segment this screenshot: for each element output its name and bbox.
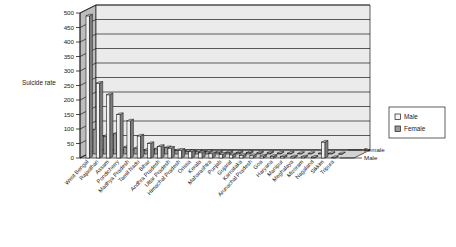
y-axis-tick-label: 500 [64, 9, 75, 16]
bar [127, 119, 133, 158]
y-axis-tick-label: 450 [64, 24, 75, 31]
legend-label-female: Female [404, 125, 426, 132]
bar [199, 151, 205, 158]
y-axis-tick-label: 200 [64, 96, 75, 103]
bar [158, 145, 164, 158]
male-swatch [395, 114, 401, 120]
plot-walls [80, 5, 370, 158]
bar [219, 153, 225, 158]
y-axis-tick-label: 250 [64, 82, 75, 89]
bar [322, 140, 328, 158]
y-axis: 050100150200250300350400450500 [64, 9, 80, 161]
y-axis-tick-label: 100 [64, 125, 75, 132]
suicide-rate-3d-bar-chart: 050100150200250300350400450500 Suicide r… [0, 0, 456, 247]
bar [96, 82, 102, 158]
y-axis-title: Suicide rate [22, 79, 56, 86]
bar [86, 14, 92, 158]
y-axis-tick-label: 0 [71, 154, 75, 161]
bar [209, 152, 215, 158]
y-axis-tick-label: 400 [64, 38, 75, 45]
female-swatch [395, 126, 401, 132]
bar [106, 93, 112, 158]
bar [137, 134, 143, 158]
legend-label-male: Male [404, 113, 418, 120]
y-axis-tick-label: 50 [67, 140, 74, 147]
y-axis-tick-label: 350 [64, 53, 75, 60]
bar [147, 142, 153, 158]
category-labels: West BengalRajasthanAssamPondicherryMadh… [64, 158, 336, 198]
bar [117, 113, 123, 158]
depth-label-male: Male [364, 154, 378, 161]
y-axis-tick-label: 300 [64, 67, 75, 74]
legend: Male Female [389, 107, 445, 138]
bar [168, 147, 174, 158]
legend-box [389, 107, 445, 138]
y-axis-tick-label: 150 [64, 111, 75, 118]
bar [188, 150, 194, 158]
depth-label-female: Female [364, 146, 385, 153]
bar [178, 149, 184, 158]
chart-container: 050100150200250300350400450500 Suicide r… [0, 0, 456, 247]
